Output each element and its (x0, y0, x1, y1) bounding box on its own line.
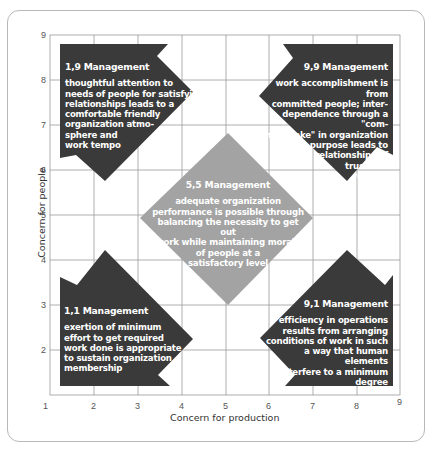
box-5-5: 5,5 Management adequate organization per… (150, 180, 306, 268)
x-tick: 2 (91, 401, 96, 411)
box-1-1: 1,1 Management exertion of minimum effor… (64, 306, 194, 374)
x-tick: 9 (397, 397, 402, 407)
x-tick: 7 (310, 401, 315, 411)
box-9-1: 9,1 Management efficiency in operations … (262, 299, 388, 387)
y-tick: 9 (41, 30, 46, 40)
y-tick: 7 (41, 120, 46, 130)
x-tick: 4 (179, 401, 184, 411)
box-9-9-body: work accomplishment is from committed pe… (255, 78, 388, 181)
x-tick: 5 (223, 401, 228, 411)
box-9-1-title: 9,1 Management (262, 299, 388, 309)
box-1-1-title: 1,1 Management (64, 306, 194, 316)
y-tick: 2 (41, 345, 46, 355)
x-tick: 6 (266, 401, 271, 411)
box-9-9: 9,9 Management work accomplishment is fr… (255, 62, 388, 181)
box-9-1-body: efficiency in operations results from ar… (262, 315, 388, 387)
box-9-9-title: 9,9 Management (255, 62, 388, 72)
box-5-5-title: 5,5 Management (150, 180, 306, 190)
box-1-9: 1,9 Management thoughtful attention to n… (65, 62, 205, 150)
y-tick: 8 (41, 75, 46, 85)
y-tick: 3 (41, 300, 46, 310)
x-axis-label: Concern for production (170, 412, 279, 423)
x-tick: 3 (135, 401, 140, 411)
box-1-1-body: exertion of minimum effort to get requir… (64, 322, 194, 373)
x-tick: 1 (43, 401, 48, 411)
box-5-5-body: adequate organization performance is pos… (150, 196, 306, 268)
box-1-9-title: 1,9 Management (65, 62, 205, 72)
y-axis-label: Concern for people (36, 158, 47, 268)
x-tick: 8 (354, 401, 359, 411)
box-1-9-body: thoughtful attention to needs of people … (65, 78, 205, 150)
